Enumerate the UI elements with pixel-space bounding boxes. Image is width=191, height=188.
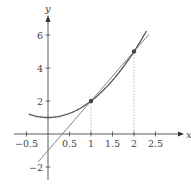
x-axis-label: x	[186, 129, 191, 140]
data-point	[89, 99, 93, 103]
plot-area: xy−0.50.511.522.5−2246	[0, 0, 191, 188]
x-tick-label: −0.5	[15, 138, 38, 149]
y-tick-label: −2	[29, 162, 43, 173]
y-tick-label: 6	[37, 30, 43, 41]
x-tick-label: 1.5	[105, 138, 120, 149]
x-tick-label: 1	[88, 138, 94, 149]
x-tick-label: 2	[131, 138, 137, 149]
y-tick-label: 4	[37, 63, 43, 74]
x-tick-label: 0.5	[62, 138, 77, 149]
y-axis-label: y	[44, 3, 51, 14]
x-tick-label: 2.5	[148, 138, 163, 149]
data-point	[132, 49, 136, 53]
chart: xy−0.50.511.522.5−2246	[0, 0, 191, 188]
x-axis-arrow-icon	[178, 132, 184, 137]
y-axis-arrow-icon	[46, 15, 51, 22]
y-tick-label: 2	[37, 96, 43, 107]
